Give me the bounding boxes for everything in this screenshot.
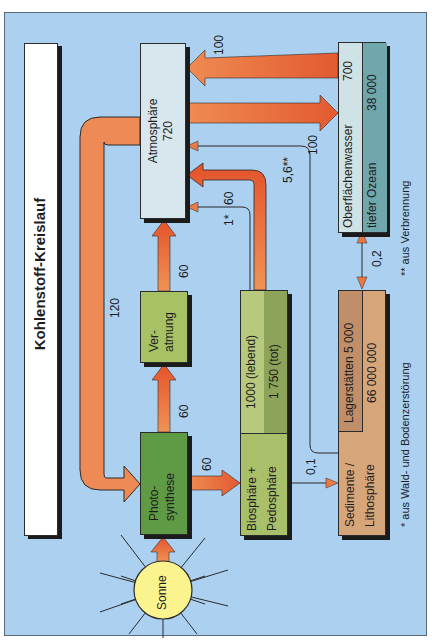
footnote-forest: * aus Wald- und Bodenzerstörung	[399, 362, 411, 527]
respiration-line1: Ver-	[148, 330, 162, 352]
sediment-line1: Sedimente /	[344, 463, 358, 527]
flow-label-photo-to-resp: 60	[177, 405, 191, 418]
arrow-photo-to-bio	[188, 470, 240, 496]
biosphere-box: 1000 (lebend) 1 750 (tot) Biosphäre + Pe…	[240, 290, 288, 536]
flow-label-ocean-sed: 0,2	[370, 250, 384, 267]
deep-ocean-label: tiefer Ozean	[366, 163, 380, 228]
footnote-combustion: ** aus Verbrennung	[399, 181, 411, 276]
respiration-line2: atmung	[163, 312, 177, 352]
sediment-line2: Lithosphäre	[364, 464, 378, 527]
biosphere-line1: Biosphäre +	[246, 467, 260, 531]
flow-label-bio-to-atm: 60	[222, 192, 236, 205]
deep-ocean-value: 38 000	[366, 74, 380, 111]
carbon-cycle-diagram: Kohlenstoff-Kreislauf Atmosphäre 720 Obe…	[0, 0, 432, 644]
ocean-box: Oberflächenwasser 700 tiefer Ozean 38 00…	[338, 42, 386, 233]
flow-label-resp-to-atm: 60	[177, 265, 191, 278]
atmosphere-box: Atmosphäre 720	[140, 43, 186, 219]
title-box: Kohlenstoff-Kreislauf	[24, 43, 58, 536]
arrow-bio-to-atm	[187, 163, 266, 290]
flow-label-photo-to-bio: 60	[200, 458, 214, 471]
page-title: Kohlenstoff-Kreislauf	[31, 174, 48, 374]
flow-label-sed-to-atm: 5,6**	[281, 157, 295, 183]
atmosphere-label: Atmosphäre	[147, 91, 161, 171]
respiration-box: Ver- atmung	[140, 291, 188, 363]
arrow-photo-to-resp	[152, 364, 176, 432]
atmosphere-value: 720	[162, 91, 176, 171]
flow-label-ocean-to-atm: 100	[212, 35, 226, 55]
flow-label-bio-star: 1*	[222, 215, 236, 226]
flow-label-atm-to-ocean: 100	[306, 135, 320, 155]
sediment-box: Lagerstätten 5 000 66 000 000 Sedimente …	[338, 290, 386, 536]
biosphere-living-value: 1000 (lebend)	[245, 335, 259, 409]
arrow-sun-to-photo	[151, 537, 175, 562]
deposits-label: Lagerstätten 5 000	[343, 323, 357, 423]
photosynthesis-line2: synthese	[164, 473, 178, 521]
sediment-value: 66 000 000	[366, 343, 380, 403]
surface-water-label: Oberflächenwasser	[342, 125, 356, 228]
biosphere-dead-value: 1 750 (tot)	[268, 344, 282, 399]
surface-water-value: 700	[342, 61, 356, 81]
arrow-atm-to-ocean	[188, 95, 338, 131]
photosynthesis-box: Photo- synthese	[140, 432, 188, 535]
flow-label-atm-to-photo: 120	[108, 298, 122, 318]
flow-label-bio-to-sed: 0,1	[304, 458, 318, 475]
sun-label: Sonne	[156, 575, 170, 610]
biosphere-line2: Pedosphäre	[266, 466, 280, 531]
arrow-ocean-to-atm	[187, 50, 338, 86]
photosynthesis-line1: Photo-	[148, 486, 162, 521]
arrow-resp-to-atm	[152, 220, 176, 291]
